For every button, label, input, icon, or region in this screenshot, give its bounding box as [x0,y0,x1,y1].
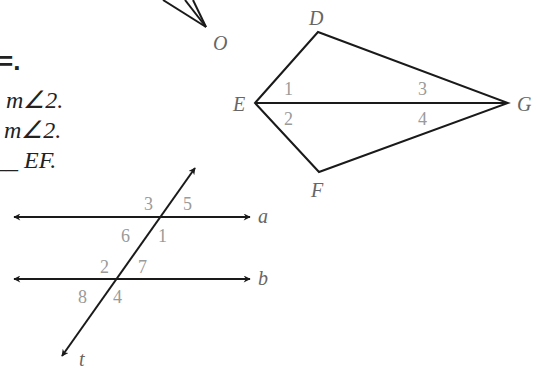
vertex-label-d: D [309,8,323,28]
text-line-ef: __ EF. [0,148,56,172]
angle-8: 8 [78,288,87,306]
angle-rays-o [163,0,206,27]
transversal-t [62,168,195,356]
angle-1: 1 [158,227,167,245]
angle-6: 6 [121,227,130,245]
text-line-m-angle-2-first: m∠2. [6,88,63,112]
kite-angle-1: 1 [284,80,293,98]
line-label-b: b [258,268,268,288]
m-angle-2-a: m∠2. [6,87,63,113]
kite-angle-4: 4 [418,110,427,128]
vertex-label-e: E [233,94,245,114]
segment-ef: EF. [24,147,56,173]
angle-2: 2 [100,258,109,276]
line-label-a: a [258,206,268,226]
kite-angle-2: 2 [284,110,293,128]
equals-fragment: =. [0,48,20,74]
geometry-figures [0,0,537,383]
m-angle-2-b: m∠2. [4,117,61,143]
vertex-label-o: O [213,33,227,53]
angle-5: 5 [183,195,192,213]
line-label-t: t [79,349,85,369]
kite-angle-3: 3 [418,80,427,98]
angle-3: 3 [144,195,153,213]
angle-4: 4 [113,288,122,306]
kite-defg [255,32,508,172]
vertex-label-f: F [311,180,323,200]
parallel-lines [14,168,250,356]
blank-underscore: __ [0,147,18,173]
angle-7: 7 [138,258,147,276]
text-line-m-angle-2-second: m∠2. [4,118,61,142]
vertex-label-g: G [517,94,531,114]
